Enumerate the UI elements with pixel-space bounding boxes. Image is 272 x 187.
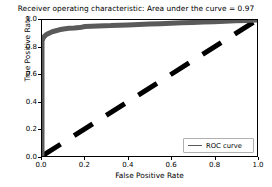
chance-diagonal-line (42, 20, 257, 156)
plot-svg (42, 20, 257, 156)
y-tick-mark (38, 19, 41, 20)
x-tick-mark (215, 157, 216, 160)
legend-line-swatch (188, 145, 202, 146)
x-axis-label: False Positive Rate (41, 171, 258, 180)
y-tick-label: 0.0 (0, 153, 37, 161)
x-tick-mark (171, 157, 172, 160)
plot-area (41, 19, 258, 157)
x-tick-label: 0.0 (21, 161, 61, 169)
y-tick-mark (38, 47, 41, 48)
x-tick-label: 0.6 (151, 161, 191, 169)
legend-label-roc-curve: ROC curve (206, 142, 242, 150)
y-tick-label: 0.2 (0, 125, 37, 133)
y-tick-mark (38, 129, 41, 130)
roc-chart-figure: Receiver operating characteristic: Area … (0, 0, 272, 187)
x-tick-mark (258, 157, 259, 160)
x-tick-mark (41, 157, 42, 160)
x-tick-label: 0.8 (195, 161, 235, 169)
x-tick-label: 0.4 (108, 161, 148, 169)
y-tick-mark (38, 102, 41, 103)
x-tick-label: 1.0 (238, 161, 272, 169)
y-axis-label: True Positive Rate (23, 0, 32, 118)
chart-title: Receiver operating characteristic: Area … (0, 4, 272, 13)
x-tick-mark (128, 157, 129, 160)
x-tick-label: 0.2 (64, 161, 104, 169)
y-tick-mark (38, 74, 41, 75)
legend: ROC curve (183, 138, 254, 153)
x-tick-mark (84, 157, 85, 160)
